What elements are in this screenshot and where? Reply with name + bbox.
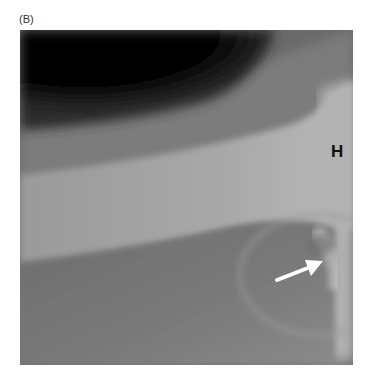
radiograph-image xyxy=(20,30,353,365)
panel-label: (B) xyxy=(19,14,34,25)
arrow-icon xyxy=(273,248,333,288)
humeral-head-marker: H xyxy=(331,143,343,160)
